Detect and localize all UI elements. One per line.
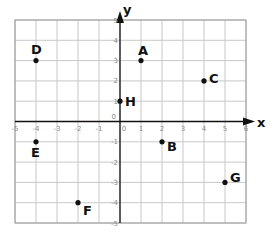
- point-label: C: [209, 71, 219, 86]
- point-marker: [117, 99, 122, 104]
- point-label: E: [31, 145, 40, 160]
- x-tick-label: -1: [96, 125, 103, 133]
- x-tick-label: 4: [202, 125, 207, 133]
- point-marker: [33, 139, 38, 144]
- point-label: F: [83, 203, 92, 218]
- x-tick-label: -3: [54, 125, 61, 133]
- point-label: G: [230, 170, 241, 185]
- y-tick-label: 1: [114, 98, 118, 106]
- x-tick-label: 6: [244, 125, 249, 133]
- point-label: H: [125, 94, 136, 109]
- axes: [15, 11, 255, 223]
- x-tick-label: 2: [160, 125, 164, 133]
- x-tick-label: 5: [223, 125, 227, 133]
- point-d: D: [31, 42, 42, 64]
- y-tick-label: 3: [114, 57, 118, 65]
- point-marker: [201, 78, 206, 83]
- point-label: B: [167, 139, 177, 154]
- x-tick-label: 1: [139, 125, 143, 133]
- point-marker: [33, 58, 38, 63]
- y-tick-label: 4: [114, 37, 119, 45]
- point-marker: [222, 180, 227, 185]
- x-tick-label: -4: [33, 125, 41, 133]
- y-tick-label: -5: [111, 220, 118, 228]
- y-tick-label: -4: [111, 199, 119, 207]
- y-tick-label: 5: [114, 17, 118, 25]
- y-tick-label: 2: [114, 77, 118, 85]
- x-tick-label: -5: [12, 125, 19, 133]
- x-tick-label: 3: [181, 125, 185, 133]
- plotted-points: ABCDEFGH: [31, 42, 241, 218]
- y-tick-label: -1: [111, 138, 118, 146]
- point-marker: [138, 58, 143, 63]
- x-axis-label: x: [257, 115, 266, 130]
- y-tick-label: -2: [111, 159, 118, 167]
- y-axis-label: y: [123, 2, 132, 17]
- x-tick-label: 0: [122, 125, 126, 133]
- x-tick-label: -2: [75, 125, 82, 133]
- point-marker: [75, 200, 80, 205]
- y-tick-label: -3: [111, 179, 118, 187]
- y-tick-label: 0: [112, 113, 116, 121]
- point-label: D: [31, 42, 42, 57]
- coordinate-grid: -5-4-3-2-10123456-5-4-3-2-1012345 ABCDEF…: [0, 0, 277, 238]
- point-marker: [159, 139, 164, 144]
- point-label: A: [138, 43, 148, 58]
